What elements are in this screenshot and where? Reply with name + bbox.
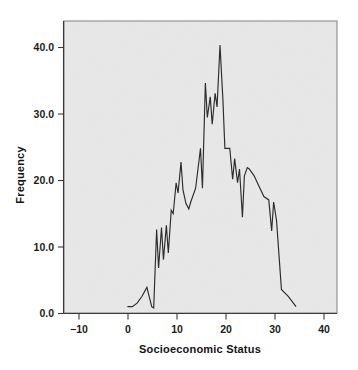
y-tick-label-0: 0.0 [39, 307, 54, 319]
y-tick-label-10: 10.0 [34, 241, 55, 253]
paper-grain-texture [64, 21, 337, 313]
x-tick-label-30: 30 [269, 323, 281, 335]
y-axis-title: Frequency [14, 146, 26, 204]
x-tick-label-20: 20 [220, 323, 232, 335]
x-tick-label-0: 0 [125, 323, 131, 335]
x-tick-label-minus10: −10 [70, 323, 88, 335]
y-tick-label-20: 20.0 [34, 174, 55, 186]
y-tick-label-30: 30.0 [34, 108, 55, 120]
frequency-line-chart: 0.0 10.0 20.0 30.0 40.0 −10 0 10 20 30 4… [0, 0, 358, 370]
chart-figure: 0.0 10.0 20.0 30.0 40.0 −10 0 10 20 30 4… [0, 0, 358, 370]
x-tick-label-10: 10 [171, 323, 183, 335]
x-axis-title: Socioeconomic Status [139, 343, 261, 355]
x-tick-label-40: 40 [318, 323, 330, 335]
y-tick-label-40: 40.0 [34, 41, 55, 53]
